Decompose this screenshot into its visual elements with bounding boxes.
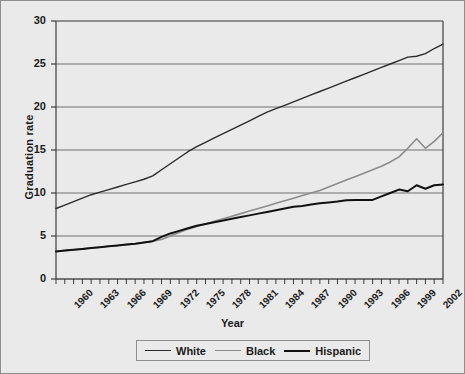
legend-line-swatch <box>284 350 310 352</box>
legend-label: Hispanic <box>315 345 361 357</box>
chart-legend: WhiteBlackHispanic <box>136 340 370 361</box>
legend-item-white[interactable]: White <box>145 345 206 357</box>
legend-line-swatch <box>215 350 241 351</box>
legend-item-black[interactable]: Black <box>215 345 275 357</box>
legend-label: Black <box>246 345 275 357</box>
legend-item-hispanic[interactable]: Hispanic <box>284 345 361 357</box>
legend-label: White <box>176 345 206 357</box>
plot-area <box>1 1 465 374</box>
legend-line-swatch <box>145 350 171 351</box>
chart-figure: Graduation rate Year 051015202530 196019… <box>0 0 465 374</box>
